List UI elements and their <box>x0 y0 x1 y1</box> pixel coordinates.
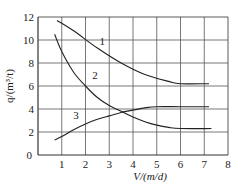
y-tick-label: 12 <box>23 11 34 23</box>
curve-label-2: 2 <box>92 69 98 81</box>
x-tick-label: 5 <box>154 158 160 170</box>
x-tick-label: 7 <box>202 158 208 170</box>
x-tick-label: 3 <box>107 158 113 170</box>
y-tick-label: 10 <box>23 34 35 46</box>
tick-labels: 12345678024681012 <box>23 11 231 170</box>
y-tick-label: 2 <box>29 126 35 138</box>
chart: 123 12345678024681012 V/(m/d) q/(m³/t) <box>0 0 239 186</box>
y-tick-label: 6 <box>29 80 35 92</box>
curve-label-1: 1 <box>99 35 105 47</box>
y-axis-label: q/(m³/t) <box>3 69 16 103</box>
x-tick-label: 1 <box>59 158 65 170</box>
y-tick-label: 8 <box>29 57 35 69</box>
x-axis-label: V/(m/d) <box>133 170 167 183</box>
curve-label-3: 3 <box>73 109 79 121</box>
y-tick-label: 4 <box>29 103 35 115</box>
origin-label: 0 <box>27 149 33 161</box>
x-tick-label: 2 <box>83 158 89 170</box>
x-tick-label: 4 <box>130 158 136 170</box>
x-tick-label: 8 <box>225 158 231 170</box>
x-tick-label: 6 <box>178 158 184 170</box>
